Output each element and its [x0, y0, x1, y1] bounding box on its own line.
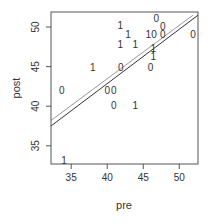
x-tick-label: 40	[102, 172, 114, 183]
data-points: 011111100001011100000	[59, 13, 196, 166]
y-axis-ticks: 35404550	[30, 21, 51, 151]
data-point: 1	[133, 100, 139, 111]
chart-svg: 011111100001011100000 35404550 35404550 …	[0, 0, 210, 224]
y-tick-label: 35	[30, 140, 41, 152]
data-point: 0	[111, 85, 117, 96]
x-tick-label: 35	[66, 172, 78, 183]
y-tick-label: 45	[30, 61, 41, 73]
y-tick-label: 50	[30, 21, 41, 33]
y-tick-label: 40	[30, 100, 41, 112]
y-axis-label: post	[10, 78, 22, 99]
data-point: 0	[104, 85, 110, 96]
data-point: 0	[153, 13, 159, 24]
data-point: 0	[111, 100, 117, 111]
data-point: 1	[90, 62, 96, 73]
x-axis-ticks: 35404550	[66, 164, 186, 183]
data-point: 1	[117, 39, 123, 50]
data-point: 0	[160, 29, 166, 40]
data-point: 0	[148, 62, 154, 73]
x-tick-label: 45	[138, 172, 150, 183]
x-axis-label: pre	[116, 199, 132, 211]
data-point: 0	[59, 85, 65, 96]
data-point: 1	[117, 20, 123, 31]
data-point: 1	[151, 51, 157, 62]
data-point: 1	[133, 39, 139, 50]
data-point: 0	[118, 62, 124, 73]
data-point: 1	[125, 29, 131, 40]
x-tick-label: 50	[174, 172, 186, 183]
data-point: 0	[151, 29, 157, 40]
scatter-chart: 011111100001011100000 35404550 35404550 …	[0, 0, 210, 224]
data-point: 0	[190, 29, 196, 40]
